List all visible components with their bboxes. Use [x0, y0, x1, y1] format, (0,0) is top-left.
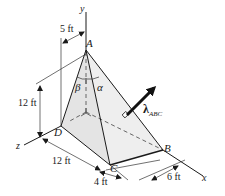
pyramid-diagram: y x z A B C D β α λABC 5 ft 12 ft 12 ft … — [0, 0, 225, 196]
dim-4ft-label: 4 ft — [94, 176, 108, 187]
dim-12ft-z-label: 12 ft — [52, 155, 71, 166]
angle-alpha-label: α — [97, 81, 103, 93]
lambda-subscript: ABC — [148, 110, 163, 118]
point-d-label: D — [53, 126, 62, 138]
point-b-label: B — [164, 142, 171, 154]
angle-beta-label: β — [74, 81, 81, 93]
dim-5ft-label: 5 ft — [60, 23, 74, 34]
z-axis-label: z — [15, 140, 20, 151]
point-a-label: A — [85, 37, 93, 49]
point-c-label: C — [110, 162, 118, 174]
x-axis-label: x — [201, 172, 207, 183]
dim-6ft-label: 6 ft — [167, 171, 181, 182]
lambda-label: λABC — [143, 102, 162, 118]
dim-12ft-height-label: 12 ft — [18, 97, 37, 108]
y-axis-label: y — [79, 3, 85, 14]
